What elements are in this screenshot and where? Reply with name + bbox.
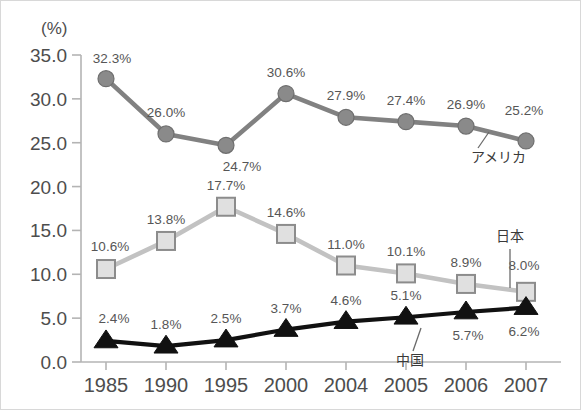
y-axis-tick-label: 30.0 <box>30 89 67 110</box>
series-annotation-label: 中国 <box>396 352 424 368</box>
data-value-label: 17.7% <box>207 178 245 193</box>
data-point-square <box>457 275 475 293</box>
data-value-label: 1.8% <box>151 317 182 332</box>
data-value-label: 10.1% <box>387 244 425 259</box>
data-value-label: 8.0% <box>509 258 540 273</box>
data-point-square <box>97 260 115 278</box>
data-value-label: 10.6% <box>91 239 129 254</box>
data-point-square <box>157 232 175 250</box>
annotation-leader-line <box>478 132 489 148</box>
data-value-label: 24.7% <box>223 159 261 174</box>
data-point-circle <box>158 126 174 142</box>
x-axis-tick-label: 2004 <box>324 374 369 396</box>
x-axis: 19851990199520002004200520062007 <box>81 362 561 396</box>
annotation-leader-line <box>413 328 421 351</box>
data-value-label: 8.9% <box>451 255 482 270</box>
data-value-label: 4.6% <box>331 293 362 308</box>
data-value-label: 27.4% <box>387 93 425 108</box>
data-value-label: 32.3% <box>93 51 131 66</box>
data-point-circle <box>398 114 414 130</box>
series-annotation-label: 日本 <box>496 228 524 244</box>
y-axis-tick-label: 20.0 <box>30 177 67 198</box>
x-axis-tick-label: 2000 <box>264 374 309 396</box>
data-value-label: 26.0% <box>147 105 185 120</box>
x-axis-tick-label: 2005 <box>384 374 429 396</box>
y-axis-tick-label: 15.0 <box>30 220 67 241</box>
data-value-label: 27.9% <box>327 88 365 103</box>
data-point-circle <box>218 137 234 153</box>
data-point-circle <box>278 86 294 102</box>
series-annotation-label: アメリカ <box>471 149 526 165</box>
data-value-label: 3.7% <box>271 301 302 316</box>
data-value-label: 26.9% <box>447 97 485 112</box>
data-value-label: 30.6% <box>267 65 305 80</box>
y-axis-tick-label: 0.0 <box>41 352 67 373</box>
data-point-square <box>397 264 415 282</box>
y-axis-tick-label: 35.0 <box>30 45 67 66</box>
y-axis-tick-label: 25.0 <box>30 133 67 154</box>
data-point-circle <box>518 133 534 149</box>
data-point-circle <box>338 109 354 125</box>
data-value-label: 11.0% <box>327 237 364 252</box>
x-axis-tick-label: 2006 <box>444 374 489 396</box>
x-axis-tick-label: 1990 <box>144 374 189 396</box>
y-axis-tick-label: 10.0 <box>30 264 67 285</box>
data-point-square <box>217 198 235 216</box>
value-labels-layer: 32.3%26.0%24.7%30.6%27.9%27.4%26.9%25.2%… <box>91 51 543 343</box>
data-value-label: 5.1% <box>391 288 422 303</box>
x-axis-tick-label: 2007 <box>504 374 549 396</box>
data-point-square <box>277 225 295 243</box>
x-axis-tick-label: 1985 <box>84 374 129 396</box>
data-point-square <box>337 257 355 275</box>
data-value-label: 2.5% <box>211 311 242 326</box>
data-value-label: 13.8% <box>147 212 185 227</box>
data-point-triangle <box>94 330 118 348</box>
y-axis: 0.05.010.015.020.025.030.035.0 <box>30 45 81 373</box>
line-chart: 0.05.010.015.020.025.030.035.0 198519901… <box>1 1 581 410</box>
data-point-circle <box>458 118 474 134</box>
data-value-label: 2.4% <box>99 311 130 326</box>
data-value-label: 5.7% <box>453 328 484 343</box>
data-value-label: 6.2% <box>509 324 540 339</box>
data-point-circle <box>98 71 114 87</box>
data-value-label: 25.2% <box>505 103 543 118</box>
chart-container: (%) 0.05.010.015.020.025.030.035.0 19851… <box>0 0 581 410</box>
x-axis-tick-label: 1995 <box>204 374 249 396</box>
data-value-label: 14.6% <box>267 205 305 220</box>
y-axis-tick-label: 5.0 <box>41 308 67 329</box>
